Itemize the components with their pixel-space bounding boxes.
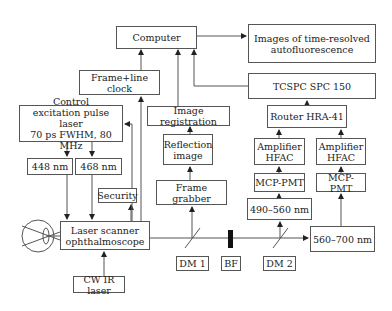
node-mcp-pmt-2: MCP-PMT [316,173,366,192]
node-468nm: 468 nm [75,158,122,175]
node-560-700nm: 560–700 nm [310,226,375,252]
node-tcspc: TCSPC SPC 150 [248,73,376,99]
node-amplifier-1: Amplifier HFAC [254,138,305,165]
node-control: Control excitation pulse laser 70 ps FWH… [19,105,123,142]
barrier-filter-icon [228,230,233,248]
node-448nm: 448 nm [27,158,73,175]
node-laser-scanner: Laser scanner ophthalmoscope [60,221,150,250]
node-computer: Computer [116,26,197,49]
label-bf: BF [221,256,241,271]
node-amplifier-2: Amplifier HFAC [316,138,366,165]
node-security: Security [98,188,137,203]
node-490-560nm: 490–560 nm [247,198,312,220]
node-mcp-pmt-1: MCP-PMT [254,173,305,192]
node-frame-line-clock: Frame+line clock [79,70,160,95]
node-images: Images of time-resolved autofluorescence [248,24,376,63]
label-dm2: DM 2 [263,256,296,271]
node-cw-ir-laser: CW IR laser [73,276,125,293]
node-frame-grabber: Frame grabber [156,180,227,205]
node-image-registration: Image registration [147,106,230,126]
node-router: Router HRA-41 [267,105,347,128]
label-dm1: DM 1 [176,256,209,271]
node-reflection-image: Reflection image [163,134,213,165]
